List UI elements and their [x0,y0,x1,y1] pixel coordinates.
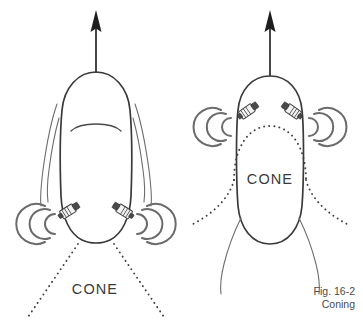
left-brow-line [71,124,121,131]
figure-caption-title: Coning [322,298,355,311]
left-wisp-inner-left [47,118,59,202]
right-wisp-left [221,218,241,294]
left-wave-arc-2 [30,209,50,239]
right-cone-ray-right [306,180,347,224]
left-probe-icon-right [111,201,135,221]
left-wave-group-right [137,204,176,244]
left-probe-icon-left [57,201,81,221]
left-cone-label: CONE [72,281,118,297]
left-cone-ray-left [28,244,78,317]
right-wave-arc-4 [309,118,318,136]
right-up-arrow-icon [265,10,276,76]
left-wisp-outer-left [41,104,57,206]
figure-caption-number: Fig. 16-2 [314,285,355,298]
right-cone-ray-left [193,180,234,224]
left-cone-ray-right [114,244,164,317]
right-wave-arc-1 [222,118,231,136]
left-wisp-outer-right [135,104,151,206]
left-head-outline [60,72,131,243]
left-panel: CONE [16,10,175,317]
left-wave-arc-1 [45,214,55,234]
left-wisp-inner-right [133,118,145,202]
right-wave-arc-2 [207,113,226,141]
left-wave-arc-4 [137,214,147,234]
right-cone-label: CONE [247,171,293,187]
right-wave-group-right [309,108,346,146]
left-wave-arc-5 [142,209,162,239]
right-head-outline [237,76,304,244]
right-wisp-right [299,218,319,294]
left-up-arrow-icon [91,10,102,73]
right-panel: CONE [193,10,347,294]
right-wave-group-left [194,108,231,146]
figure-illustration: CONE [0,0,363,329]
left-wave-group-left [16,204,55,244]
figure-container: CONE [0,0,363,329]
right-wave-arc-5 [314,113,333,141]
